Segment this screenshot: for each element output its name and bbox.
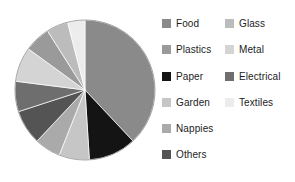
- legend-item-plastics[interactable]: Plastics: [162, 44, 213, 55]
- legend-item-label: Nappies: [176, 123, 213, 134]
- pie-chart-plot-area: [12, 12, 160, 170]
- pie-chart-figure: FoodPlasticsPaperGardenNappiesOthers Gla…: [0, 0, 295, 182]
- legend-item-paper[interactable]: Paper: [162, 71, 213, 82]
- legend-item-label: Glass: [239, 18, 265, 29]
- legend-column-right: GlassMetalElectricalTextiles: [225, 18, 281, 123]
- legend-item-label: Metal: [239, 44, 264, 55]
- legend-swatch-icon: [225, 72, 234, 81]
- legend-item-garden[interactable]: Garden: [162, 97, 213, 108]
- legend-item-electrical[interactable]: Electrical: [225, 71, 281, 82]
- legend-item-label: Others: [176, 149, 207, 160]
- legend-item-label: Electrical: [239, 71, 281, 82]
- legend-swatch-icon: [162, 72, 171, 81]
- legend-item-glass[interactable]: Glass: [225, 18, 281, 29]
- pie-chart-svg: [12, 12, 160, 170]
- chart-legend: FoodPlasticsPaperGardenNappiesOthers Gla…: [160, 18, 295, 174]
- legend-swatch-icon: [225, 19, 234, 28]
- pie-slice-group: [15, 20, 155, 160]
- legend-swatch-icon: [162, 124, 171, 133]
- legend-swatch-icon: [162, 19, 171, 28]
- legend-swatch-icon: [162, 150, 171, 159]
- legend-swatch-icon: [162, 45, 171, 54]
- legend-item-label: Plastics: [176, 44, 211, 55]
- legend-swatch-icon: [225, 45, 234, 54]
- legend-item-label: Paper: [176, 71, 203, 82]
- legend-item-food[interactable]: Food: [162, 18, 213, 29]
- legend-item-metal[interactable]: Metal: [225, 44, 281, 55]
- legend-item-others[interactable]: Others: [162, 149, 213, 160]
- legend-column-left: FoodPlasticsPaperGardenNappiesOthers: [162, 18, 213, 176]
- legend-item-textiles[interactable]: Textiles: [225, 97, 281, 108]
- legend-item-label: Textiles: [239, 97, 273, 108]
- legend-swatch-icon: [162, 98, 171, 107]
- legend-swatch-icon: [225, 98, 234, 107]
- legend-item-nappies[interactable]: Nappies: [162, 123, 213, 134]
- legend-item-label: Garden: [176, 97, 210, 108]
- legend-item-label: Food: [176, 18, 199, 29]
